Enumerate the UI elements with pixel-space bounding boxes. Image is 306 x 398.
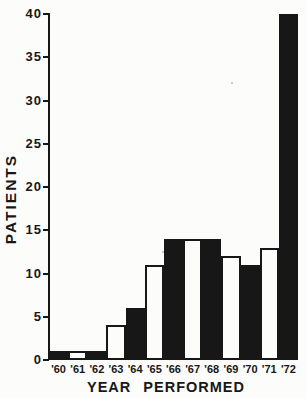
bar-71 [260, 248, 279, 360]
bar-60 [49, 351, 68, 360]
bar-64 [126, 308, 145, 360]
bar-72 [279, 14, 298, 360]
bar-61 [68, 351, 87, 360]
y-tick-label: 15 [12, 222, 42, 237]
y-tick-label: 30 [12, 93, 42, 108]
bar-69 [221, 256, 241, 360]
bar-65 [145, 265, 164, 360]
bar-67 [183, 239, 202, 360]
y-tick-label: 5 [12, 309, 42, 324]
x-axis-title: YEAR PERFORMED [42, 379, 290, 395]
bar-63 [106, 325, 126, 360]
y-tick-label: 40 [12, 6, 42, 21]
bar-70 [241, 265, 260, 360]
x-tick-label: '72 [275, 363, 301, 375]
y-tick-label: 25 [12, 136, 42, 151]
y-tick-label: 35 [12, 49, 42, 64]
y-axis-title: PATIENTS [2, 139, 20, 259]
y-tick-label: 0 [12, 352, 42, 367]
bar-chart-figure: PATIENTS 0510152025303540 '60'61'62'63'6… [0, 0, 306, 398]
y-tick-label: 10 [12, 266, 42, 281]
bar-62 [87, 351, 106, 360]
y-tick-label: 20 [12, 179, 42, 194]
scan-speck [162, 251, 164, 253]
bar-68 [202, 239, 221, 360]
plot-area [49, 14, 298, 360]
scan-speck [231, 82, 233, 84]
bar-66 [164, 239, 183, 360]
